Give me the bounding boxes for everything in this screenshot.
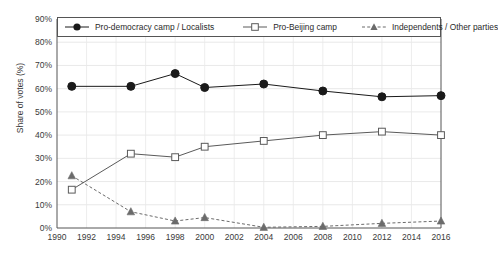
data-point-marker (260, 138, 267, 145)
legend-marker-filled-circle (64, 21, 90, 33)
data-point-marker (319, 132, 326, 139)
data-point-marker (201, 143, 208, 150)
data-point-marker (201, 213, 209, 220)
data-point-marker (172, 154, 179, 161)
data-point-marker (260, 80, 268, 88)
data-point-marker (68, 186, 75, 193)
data-point-marker (127, 208, 135, 215)
series-line (72, 132, 441, 190)
legend-marker-filled-triangle (361, 21, 387, 33)
axis-lines (57, 19, 441, 228)
data-point-marker (379, 128, 386, 135)
series-3 (68, 172, 445, 231)
series-1 (68, 70, 445, 101)
legend-item-1[interactable]: Pro-democracy camp / Localists (64, 21, 214, 33)
data-point-marker (127, 82, 135, 90)
data-point-marker (437, 217, 445, 224)
data-point-marker (378, 93, 386, 101)
data-point-marker (68, 172, 76, 179)
chart-legend: Pro-democracy camp / LocalistsPro-Beijin… (57, 17, 441, 37)
legend-item-label: Pro-democracy camp / Localists (95, 22, 214, 32)
series-2 (68, 128, 444, 193)
legend-item-label: Pro-Beijing camp (273, 22, 337, 32)
data-point-marker (127, 150, 134, 157)
data-point-marker (171, 70, 179, 78)
data-point-marker (438, 132, 445, 139)
data-point-marker (260, 223, 268, 230)
grid-lines (57, 19, 441, 228)
legend-item-2[interactable]: Pro-Beijing camp (242, 21, 337, 33)
series-line (72, 176, 441, 228)
data-point-marker (437, 92, 445, 100)
legend-item-label: Independents / Other parties (392, 22, 498, 32)
legend-item-3[interactable]: Independents / Other parties (361, 21, 498, 33)
data-point-marker (201, 84, 209, 92)
data-point-marker (319, 87, 327, 95)
data-point-marker (68, 82, 76, 90)
legend-marker-open-square (242, 21, 268, 33)
